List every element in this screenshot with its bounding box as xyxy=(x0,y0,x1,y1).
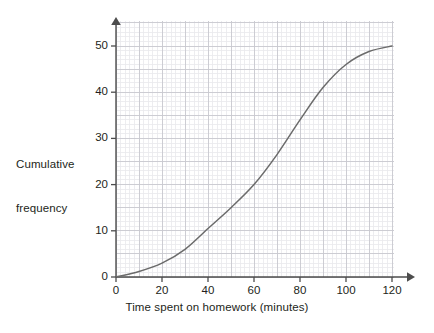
x-axis-tick-label: 80 xyxy=(275,284,325,296)
x-axis-tick-label: 0 xyxy=(91,284,141,296)
x-axis-tick-label: 100 xyxy=(321,284,371,296)
y-axis-title-line-2: frequency xyxy=(16,201,75,216)
x-axis-tick-label: 20 xyxy=(137,284,187,296)
cumulative-frequency-chart: Cumulative frequency Time spent on homew… xyxy=(0,0,434,333)
y-axis-tick-label: 10 xyxy=(68,224,108,236)
y-axis-tick-label: 20 xyxy=(68,178,108,190)
x-axis-tick-label: 60 xyxy=(229,284,279,296)
y-axis-tick-label: 50 xyxy=(68,39,108,51)
y-axis-tick-label: 30 xyxy=(68,131,108,143)
x-axis-tick-label: 40 xyxy=(183,284,233,296)
x-axis-tick-label: 120 xyxy=(367,284,417,296)
y-axis-title: Cumulative frequency xyxy=(16,128,75,244)
y-axis-tick-label: 0 xyxy=(68,270,108,282)
x-axis-title: Time spent on homework (minutes) xyxy=(0,300,434,315)
y-axis-title-line-1: Cumulative xyxy=(16,157,75,172)
y-axis-tick-label: 40 xyxy=(68,85,108,97)
